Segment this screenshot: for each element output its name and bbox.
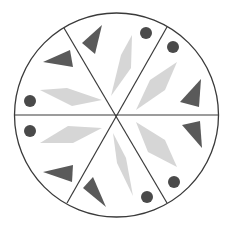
light-parallelogram <box>40 88 102 106</box>
dot <box>140 27 152 39</box>
dot <box>168 176 180 188</box>
sector-dividers <box>15 27 219 203</box>
dot <box>141 191 153 203</box>
dark-triangle <box>43 165 73 182</box>
sector-circle-diagram <box>0 0 229 230</box>
light-parallelogram <box>111 35 132 96</box>
dot <box>167 41 179 53</box>
dot <box>24 125 36 137</box>
dot <box>24 95 36 107</box>
light-parallelogram <box>40 126 102 143</box>
dark-triangle <box>83 177 106 207</box>
dark-triangle <box>82 25 102 54</box>
diagram-canvas <box>0 0 229 230</box>
dark-triangle <box>182 121 202 148</box>
dark-triangle <box>180 79 201 107</box>
light-parallelogram <box>113 133 133 196</box>
dark-triangle <box>43 50 73 67</box>
light-parallelogram <box>136 62 177 110</box>
